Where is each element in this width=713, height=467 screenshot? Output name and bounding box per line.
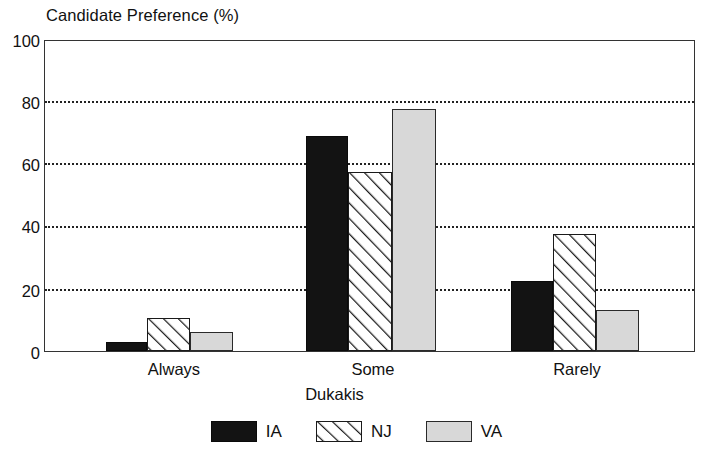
bar-always-nj [147,318,190,351]
bar-some-ia [306,136,348,351]
x-tick-label-rarely: Rarely [512,360,642,379]
x-tick-label-always: Always [109,360,239,379]
bar-rarely-va [596,310,639,351]
legend-item-va: VA [426,421,502,442]
bar-rarely-ia [511,281,553,351]
y-tick-label-60: 60 [0,157,40,174]
hatch-pattern-icon [349,173,391,350]
legend: IA NJ VA [0,421,713,442]
bar-always-va [190,332,233,351]
y-tick-label-0: 0 [0,345,40,362]
legend-swatch-va [426,421,472,442]
y-tick-label-80: 80 [0,95,40,112]
hatch-pattern-icon [317,422,361,441]
bar-chart: Candidate Preference (%) 100 80 60 40 20… [0,0,713,467]
gridline-60 [45,163,694,165]
y-tick-label-40: 40 [0,219,40,236]
legend-swatch-nj [316,421,362,442]
bar-rarely-nj [553,234,596,351]
hatch-pattern-icon [554,235,595,350]
x-tick-label-some: Some [308,360,438,379]
legend-item-nj: NJ [316,421,392,442]
bar-some-nj [348,172,392,351]
legend-swatch-ia [211,421,257,442]
legend-label-nj: NJ [371,423,392,440]
gridline-80 [45,101,694,103]
bar-some-va [392,109,436,351]
x-axis-title: Dukakis [0,385,713,404]
bar-always-ia [106,342,147,351]
legend-label-ia: IA [266,423,282,440]
legend-item-ia: IA [211,421,282,442]
plot-area [44,40,695,352]
x-axis-title-text: Dukakis [305,385,364,404]
y-tick-label-100: 100 [0,33,40,50]
legend-label-va: VA [481,423,502,440]
hatch-pattern-icon [148,319,189,350]
y-tick-label-20: 20 [0,283,40,300]
